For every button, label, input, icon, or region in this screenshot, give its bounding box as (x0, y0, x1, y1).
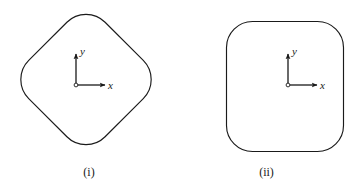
figure-i-caption: (i) (0, 166, 178, 178)
y-axis-label: y (79, 45, 85, 57)
rounded-diamond-outline-group (10, 3, 163, 156)
figure-i-coordinate-axes: y x (74, 45, 113, 91)
y-axis-label: y (291, 45, 297, 57)
rounded-diamond-outline (10, 3, 163, 156)
figure-ii-caption: (ii) (178, 166, 355, 178)
origin-marker (286, 83, 290, 87)
x-axis-label: x (319, 79, 325, 91)
figure-canvas: y x y x (0, 0, 355, 187)
rounded-square-outline (227, 22, 344, 152)
figure-i: y x (10, 3, 163, 156)
figure-ii-coordinate-axes: y x (286, 45, 325, 91)
figure-ii: y x (227, 22, 344, 152)
x-axis-label: x (107, 79, 113, 91)
origin-marker (74, 83, 78, 87)
